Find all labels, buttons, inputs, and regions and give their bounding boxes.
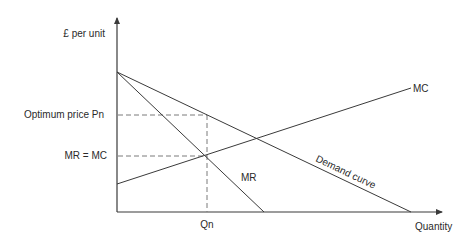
optimum-price-label: Optimum price Pn (24, 109, 104, 120)
demand-curve-label: Demand curve (314, 153, 378, 191)
mc-curve (117, 88, 411, 184)
mr-curve (117, 72, 264, 212)
x-axis-label: Quantity (415, 221, 452, 232)
qn-label: Qn (200, 219, 213, 230)
profit-max-diagram: £ per unit Quantity Optimum price Pn MR … (0, 0, 471, 247)
mr-equals-mc-label: MR = MC (65, 150, 108, 161)
diagram-canvas: £ per unit Quantity Optimum price Pn MR … (0, 0, 471, 247)
demand-curve (117, 72, 411, 212)
y-axis-label: £ per unit (63, 28, 105, 39)
mc-curve-label: MC (413, 83, 429, 94)
mr-curve-label: MR (241, 172, 257, 183)
